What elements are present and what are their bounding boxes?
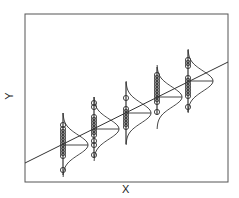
x-axis-label: X: [122, 183, 129, 195]
data-group: [60, 113, 88, 177]
data-group: [185, 49, 213, 113]
data-group: [123, 81, 151, 145]
data-groups: [60, 49, 213, 177]
y-axis-label: Y: [3, 92, 15, 99]
conditional-distribution-chart: [0, 0, 239, 198]
data-group: [154, 65, 182, 129]
data-group: [91, 97, 119, 161]
